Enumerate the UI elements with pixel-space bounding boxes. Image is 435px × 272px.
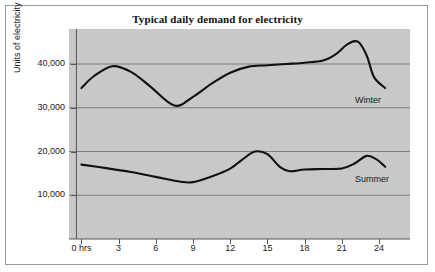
x-tick-label: 3: [116, 243, 121, 253]
x-tick-label: 12: [225, 243, 235, 253]
x-tick-mark: [119, 239, 120, 244]
y-axis-title: Units of electricity: [12, 2, 22, 73]
x-tick-mark: [342, 239, 343, 244]
chart-title: Typical daily demand for electricity: [6, 13, 429, 25]
y-tick-label: 20,000: [37, 146, 65, 156]
series-lines: [69, 29, 410, 239]
x-tick-label: 21: [337, 243, 347, 253]
series-label-summer: Summer: [355, 174, 389, 184]
x-tick-mark: [193, 239, 194, 244]
series-line-winter: [81, 41, 385, 106]
x-tick-label: 0 hrs: [71, 243, 91, 253]
y-tick-label: 10,000: [37, 189, 65, 199]
x-tick-label: 18: [300, 243, 310, 253]
plot-area: 10,00020,00030,00040,000 0 hrs3691215182…: [69, 29, 410, 239]
series-label-winter: Winter: [355, 95, 381, 105]
x-tick-mark: [305, 239, 306, 244]
x-tick-label: 6: [153, 243, 158, 253]
x-tick-mark: [379, 239, 380, 244]
x-tick-label: 24: [374, 243, 384, 253]
y-tick-label: 30,000: [37, 102, 65, 112]
chart-frame: Typical daily demand for electricity 10,…: [5, 5, 428, 265]
x-tick-mark: [230, 239, 231, 244]
series-line-summer: [81, 151, 385, 182]
y-tick-mark: [71, 64, 76, 65]
x-tick-mark: [81, 239, 82, 244]
x-tick-label: 15: [262, 243, 272, 253]
y-tick-mark: [71, 152, 76, 153]
x-tick-label: 9: [190, 243, 195, 253]
y-tick-label: 40,000: [37, 58, 65, 68]
y-tick-mark: [71, 108, 76, 109]
x-tick-mark: [267, 239, 268, 244]
x-tick-mark: [156, 239, 157, 244]
y-tick-mark: [71, 195, 76, 196]
